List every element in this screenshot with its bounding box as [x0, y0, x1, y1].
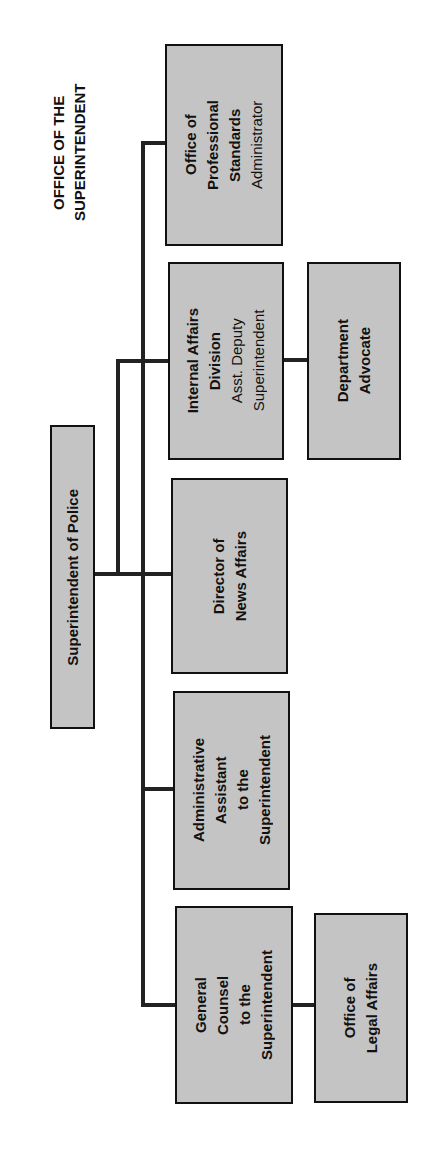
- dept-advocate-connector: [283, 358, 308, 362]
- node-text: Office of Professional StandardsAdminist…: [180, 100, 268, 190]
- gc-connector: [143, 1003, 176, 1007]
- node-department-advocate: Department Advocate: [307, 262, 401, 460]
- node-internal-affairs-division: Internal Affairs DivisionAsst. Deputy Su…: [168, 262, 284, 460]
- node-director-of-news-affairs: Director of News Affairs: [171, 478, 288, 674]
- node-office-of-professional-standards: Office of Professional StandardsAdminist…: [165, 44, 283, 246]
- node-subtitle: Administrator: [248, 101, 265, 189]
- iad-branch-line: [116, 359, 120, 576]
- node-office-of-legal-affairs: Office of Legal Affairs: [314, 913, 408, 1103]
- node-title: Internal Affairs Division: [184, 308, 223, 413]
- node-title: Administrative Assistant to the Superint…: [188, 735, 276, 845]
- iad-connector: [116, 359, 169, 363]
- node-general-counsel: General Counsel to the Superintendent: [175, 906, 293, 1104]
- node-title: Superintendent of Police: [62, 489, 84, 666]
- node-text: Internal Affairs DivisionAsst. Deputy Su…: [182, 308, 270, 413]
- node-superintendent-of-police: Superintendent of Police: [50, 425, 95, 729]
- node-title: Director of News Affairs: [208, 531, 252, 621]
- chart-heading: OFFICE OF THE SUPERINTENDENT: [48, 45, 92, 260]
- admin-connector: [143, 787, 174, 791]
- node-title: Department Advocate: [332, 319, 376, 402]
- node-title: Office of Professional Standards: [182, 100, 243, 190]
- node-title: General Counsel to the Superintendent: [190, 950, 278, 1060]
- node-subtitle: Asst. Deputy Superintendent: [228, 310, 267, 412]
- root-connector: [94, 572, 172, 576]
- legal-affairs-connector: [292, 1003, 315, 1007]
- node-title: Office of Legal Affairs: [339, 963, 383, 1053]
- node-administrative-assistant: Administrative Assistant to the Superint…: [173, 691, 290, 890]
- ops-connector: [141, 141, 167, 145]
